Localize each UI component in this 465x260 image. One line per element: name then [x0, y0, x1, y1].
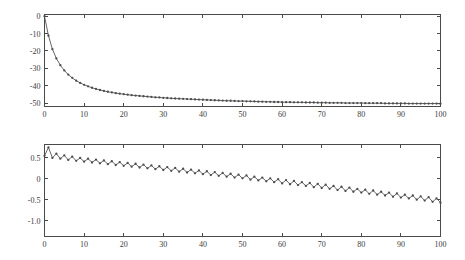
data-point-marker	[424, 102, 426, 104]
y-tick-label: 0.5	[31, 154, 41, 163]
data-point-marker	[75, 79, 77, 81]
data-point-marker	[273, 101, 275, 103]
data-point-marker	[368, 193, 370, 195]
data-point-marker	[427, 196, 429, 198]
data-point-marker	[317, 183, 319, 185]
data-point-marker	[364, 102, 366, 104]
x-tick-label: 20	[120, 240, 128, 249]
data-point-marker	[59, 64, 61, 66]
data-point-marker	[336, 189, 338, 191]
data-point-marker	[83, 84, 85, 86]
data-point-marker	[424, 199, 426, 201]
data-point-marker	[229, 173, 231, 175]
data-point-marker	[281, 182, 283, 184]
data-point-marker	[71, 77, 73, 79]
y-tick-label: 0	[37, 175, 41, 184]
x-tick-label: 20	[120, 110, 128, 119]
data-point-marker	[55, 153, 57, 155]
x-tick-label: 40	[199, 240, 207, 249]
data-point-marker	[404, 102, 406, 104]
data-point-marker	[198, 98, 200, 100]
x-tick-label: 30	[159, 110, 167, 119]
x-tick-label: 90	[397, 240, 405, 249]
data-point-marker	[150, 96, 152, 98]
data-point-marker	[427, 102, 429, 104]
data-point-marker	[218, 99, 220, 101]
data-point-marker	[237, 100, 239, 102]
data-point-marker	[186, 98, 188, 100]
y-tick-label: -20	[30, 47, 41, 56]
data-point-marker	[138, 95, 140, 97]
data-point-marker	[289, 101, 291, 103]
data-point-marker	[328, 188, 330, 190]
data-point-marker	[352, 191, 354, 193]
data-point-marker	[408, 102, 410, 104]
data-point-marker	[111, 160, 113, 162]
data-point-marker	[222, 172, 224, 174]
data-point-marker	[269, 177, 271, 179]
data-point-marker	[134, 163, 136, 165]
data-point-marker	[194, 172, 196, 174]
data-point-marker	[360, 191, 362, 193]
data-point-marker	[376, 194, 378, 196]
data-point-marker	[412, 102, 414, 104]
data-point-marker	[130, 166, 132, 168]
data-point-marker	[277, 101, 279, 103]
data-point-marker	[420, 102, 422, 104]
data-point-marker	[313, 101, 315, 103]
data-point-marker	[190, 98, 192, 100]
data-point-marker	[309, 182, 311, 184]
data-point-marker	[396, 102, 398, 104]
data-point-marker	[91, 87, 93, 89]
data-point-marker	[158, 165, 160, 167]
y-tick-label: -10	[30, 30, 41, 39]
data-point-marker	[368, 102, 370, 104]
data-point-marker	[218, 175, 220, 177]
data-point-marker	[43, 15, 45, 17]
x-tick-label: 60	[278, 110, 286, 119]
data-point-marker	[71, 155, 73, 157]
data-point-marker	[233, 176, 235, 178]
axis-frame	[45, 145, 441, 237]
data-point-marker	[257, 100, 259, 102]
x-tick-label: 50	[239, 110, 247, 119]
data-point-marker	[59, 158, 61, 160]
y-tick-label: 0	[37, 12, 41, 21]
x-tick-label: 80	[357, 110, 365, 119]
data-point-marker	[352, 102, 354, 104]
data-point-marker	[214, 99, 216, 101]
data-point-marker	[79, 82, 81, 84]
data-point-marker	[253, 176, 255, 178]
data-point-marker	[237, 173, 239, 175]
data-point-marker	[293, 180, 295, 182]
data-point-marker	[99, 162, 101, 164]
data-point-marker	[95, 88, 97, 90]
data-point-marker	[210, 174, 212, 176]
data-point-marker	[210, 99, 212, 101]
data-point-marker	[269, 101, 271, 103]
data-point-marker	[321, 187, 323, 189]
data-point-marker	[202, 173, 204, 175]
data-point-marker	[103, 159, 105, 161]
data-point-marker	[305, 185, 307, 187]
data-point-marker	[356, 102, 358, 104]
data-point-marker	[431, 201, 433, 203]
data-point-marker	[285, 101, 287, 103]
data-point-marker	[340, 186, 342, 188]
x-tick-label: 100	[435, 240, 447, 249]
data-point-marker	[146, 167, 148, 169]
data-point-marker	[182, 168, 184, 170]
data-point-marker	[309, 101, 311, 103]
top-chart-svg: 01020304050607080901000-10-20-30-40-50	[0, 0, 465, 130]
data-point-marker	[127, 162, 129, 164]
data-point-marker	[360, 102, 362, 104]
data-point-marker	[202, 99, 204, 101]
data-point-marker	[115, 92, 117, 94]
data-point-marker	[277, 178, 279, 180]
data-point-marker	[150, 164, 152, 166]
data-point-marker	[99, 89, 101, 91]
x-tick-label: 30	[159, 240, 167, 249]
data-point-marker	[257, 179, 259, 181]
data-point-marker	[380, 102, 382, 104]
x-tick-label: 0	[43, 240, 47, 249]
